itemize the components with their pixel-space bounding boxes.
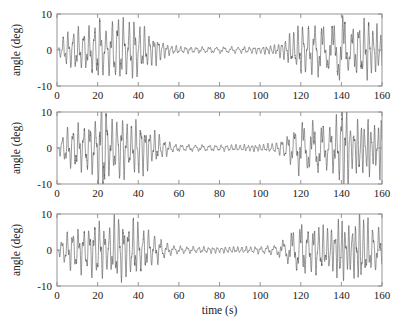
figure-container: 020406080100120140160-10010angle (deg)02… <box>0 0 405 325</box>
x-tick-label: 20 <box>92 187 104 199</box>
x-tick-label: 80 <box>214 289 226 301</box>
y-tick-label: -10 <box>37 280 52 292</box>
x-tick-label: 120 <box>293 89 310 101</box>
x-tick-label: 80 <box>214 89 226 101</box>
x-tick-label: 40 <box>133 289 145 301</box>
x-tick-label: 40 <box>133 187 145 199</box>
y-tick-label: -10 <box>37 80 52 92</box>
y-tick-label: 10 <box>41 8 53 20</box>
x-tick-label: 120 <box>293 289 310 301</box>
multi-panel-line-chart: 020406080100120140160-10010angle (deg)02… <box>0 0 405 325</box>
x-tick-label: 160 <box>374 289 391 301</box>
x-tick-label: 60 <box>173 187 185 199</box>
y-tick-label: 0 <box>47 44 53 56</box>
x-axis-label: time (s) <box>202 304 238 317</box>
x-tick-label: 20 <box>92 89 104 101</box>
x-tick-label: 60 <box>173 89 185 101</box>
x-tick-label: 80 <box>214 187 226 199</box>
x-tick-label: 100 <box>252 187 269 199</box>
x-tick-label: 100 <box>252 89 269 101</box>
x-tick-label: 100 <box>252 289 269 301</box>
x-tick-label: 20 <box>92 289 104 301</box>
x-tick-label: 140 <box>333 89 350 101</box>
y-axis-label-panel-2: angle (deg) <box>10 122 23 174</box>
x-tick-label: 40 <box>133 89 145 101</box>
x-tick-label: 0 <box>54 289 60 301</box>
x-tick-label: 0 <box>54 89 60 101</box>
y-tick-label: 10 <box>41 106 53 118</box>
x-tick-label: 0 <box>54 187 60 199</box>
x-tick-label: 120 <box>293 187 310 199</box>
x-tick-label: 140 <box>333 289 350 301</box>
y-tick-label: 0 <box>47 142 53 154</box>
x-tick-label: 160 <box>374 89 391 101</box>
y-axis-label-panel-1: angle (deg) <box>10 24 23 76</box>
y-tick-label: 10 <box>41 208 53 220</box>
x-tick-label: 140 <box>333 187 350 199</box>
x-tick-label: 60 <box>173 289 185 301</box>
x-tick-label: 160 <box>374 187 391 199</box>
y-tick-label: -10 <box>37 178 52 190</box>
y-tick-label: 0 <box>47 244 53 256</box>
y-axis-label-panel-3: angle (deg) <box>10 224 23 276</box>
